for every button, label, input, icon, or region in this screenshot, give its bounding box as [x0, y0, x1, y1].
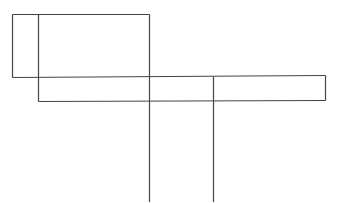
line-outer-bottom [13, 76, 326, 78]
line-diagram [0, 0, 337, 202]
line-inner-bottom [39, 101, 326, 102]
line-group [13, 15, 326, 203]
